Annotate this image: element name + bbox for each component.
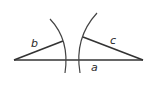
triangle-inequality-diagram: a b c bbox=[0, 0, 149, 94]
label-c: c bbox=[110, 34, 116, 47]
diagram-svg: a b c bbox=[0, 0, 149, 94]
arc-left bbox=[50, 19, 66, 73]
segment-b bbox=[14, 41, 63, 60]
label-a: a bbox=[91, 61, 98, 74]
label-b: b bbox=[31, 37, 38, 50]
